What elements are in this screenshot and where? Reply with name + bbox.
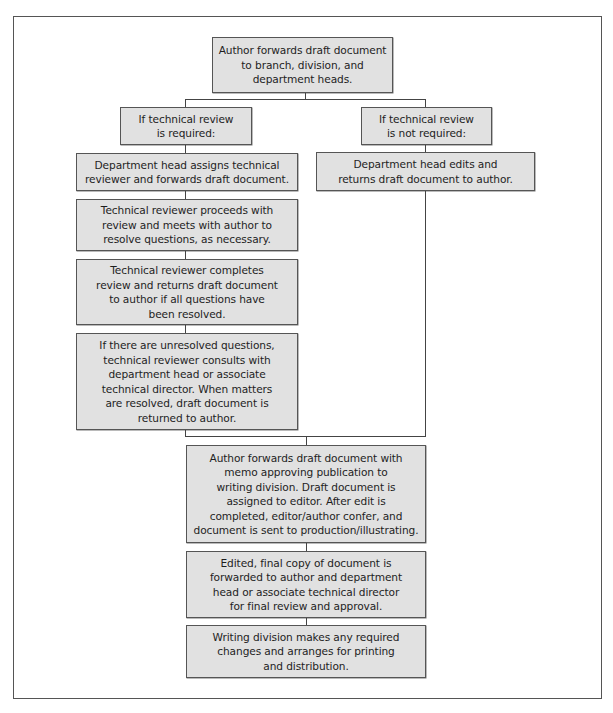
node-printing: Writing division makes any required chan… — [186, 625, 426, 678]
node-reviewer-proceeds: Technical reviewer proceeds with review … — [76, 199, 298, 251]
connector-assign-proceeds — [185, 191, 186, 199]
node-forward-to-writing: Author forwards draft document with memo… — [186, 445, 426, 543]
connector-completes-unresolved — [185, 325, 186, 333]
node-reviewer-completes: Technical reviewer completes review and … — [76, 259, 298, 325]
connector-final-printing — [306, 618, 307, 625]
connector-branch-right — [425, 99, 426, 107]
connector-forward-final — [306, 543, 307, 551]
connector-merge-down — [306, 436, 307, 445]
connector-branch-left — [185, 99, 186, 107]
connector-edits-merge — [425, 191, 426, 437]
node-dept-head-edits: Department head edits and returns draft … — [316, 152, 535, 191]
connector-proceeds-completes — [185, 251, 186, 259]
node-review-required: If technical review is required: — [120, 107, 252, 145]
node-unresolved: If there are unresolved questions, techn… — [76, 333, 298, 430]
connector-required-assign — [185, 145, 186, 153]
connector-branch — [185, 99, 426, 100]
node-review-not-required: If technical review is not required: — [361, 107, 492, 145]
connector-notrequired-edits — [425, 145, 426, 152]
node-start: Author forwards draft document to branch… — [212, 37, 393, 93]
node-assign-reviewer: Department head assigns technical review… — [76, 153, 298, 191]
node-final-copy: Edited, final copy of document is forwar… — [186, 551, 426, 618]
